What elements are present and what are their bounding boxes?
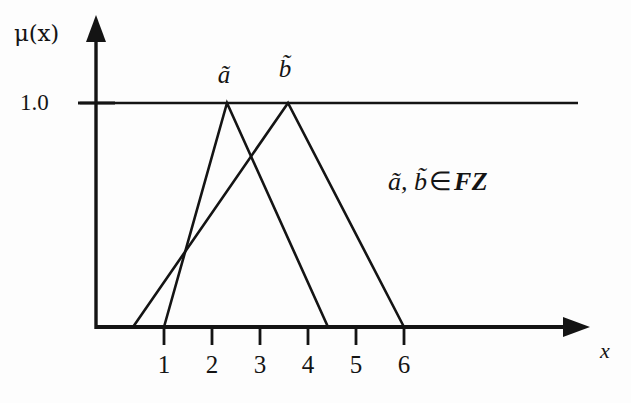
curve-label-a-tilde: ã	[204, 62, 244, 87]
element-of-icon: ∈	[427, 167, 454, 196]
set-membership-annotation: ã, b̃∈FZ	[388, 166, 488, 197]
x-tick-label-2: 2	[198, 352, 226, 377]
x-tick-label-4: 4	[294, 352, 322, 377]
x-axis-label: x	[600, 340, 610, 362]
annotation-symbol-b: b̃	[414, 167, 427, 196]
figure-canvas	[0, 0, 631, 403]
x-axis	[95, 317, 590, 337]
annotation-symbol-a: ã	[388, 167, 401, 196]
x-tick-label-6: 6	[390, 352, 418, 377]
x-tick-label-1: 1	[150, 352, 178, 377]
fuzzy-number-figure: μ(x) 1.0 x 1 2 3 4 5 6 ã b̃ ã, b̃∈FZ	[0, 0, 631, 403]
annotation-set-name: FZ	[454, 167, 488, 196]
x-axis-arrowhead	[563, 317, 590, 337]
x-tick-label-3: 3	[246, 352, 274, 377]
y-axis-arrowhead	[86, 15, 106, 42]
membership-curve-a-tilde	[164, 103, 328, 327]
x-tick-marks	[164, 327, 404, 345]
y-tick-label-1.0: 1.0	[20, 91, 49, 114]
y-axis-label: μ(x)	[14, 22, 59, 45]
curve-label-b-tilde: b̃	[265, 56, 305, 81]
y-axis	[86, 15, 106, 329]
x-tick-label-5: 5	[342, 352, 370, 377]
